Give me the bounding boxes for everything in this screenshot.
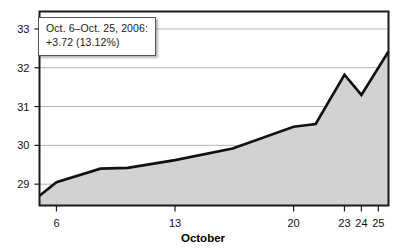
x-axis-title: October <box>0 232 406 244</box>
annotation-line-2: +3.72 (13.12%) <box>46 36 148 50</box>
y-tick-label-31: 31 <box>6 101 30 113</box>
y-tick-label-33: 33 <box>6 23 30 35</box>
x-tick-label-13: 13 <box>169 217 181 229</box>
y-tick-label-29: 29 <box>6 178 30 190</box>
y-tick-label-32: 32 <box>6 62 30 74</box>
annotation-callout: Oct. 6–Oct. 25, 2006: +3.72 (13.12%) <box>38 17 156 56</box>
x-tick-label-25: 25 <box>372 217 384 229</box>
area-chart: 2930313233 61320232425 October Oct. 6–Oc… <box>0 0 406 251</box>
annotation-line-1: Oct. 6–Oct. 25, 2006: <box>46 22 148 36</box>
x-tick-label-6: 6 <box>53 217 59 229</box>
y-tick-label-30: 30 <box>6 139 30 151</box>
x-tick-label-23: 23 <box>338 217 350 229</box>
x-tick-label-20: 20 <box>288 217 300 229</box>
x-tick-label-24: 24 <box>355 217 367 229</box>
